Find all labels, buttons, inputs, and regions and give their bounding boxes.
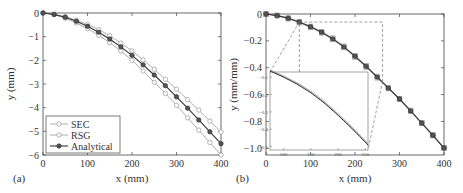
x-tick-label: 400 [214,158,229,169]
figure: 01002003004000−1−2−3−4−5−6x (mm)y (mm)(a… [0,0,463,193]
x-tick-label: 0 [264,158,269,169]
legend-entry: SEC [71,119,90,130]
y-tick-label: −0.4 [244,62,262,73]
x-tick-label: 0 [41,158,46,169]
inset-x-tick-label: 150 [307,152,315,157]
x-tick-label: 200 [348,158,363,169]
inset-y-tick-label: −0.4 [259,127,269,132]
y-tick-label: 0 [257,9,262,20]
x-tick-label: 100 [303,158,318,169]
y-tick-label: 0 [34,8,39,19]
panel-label: (a) [13,172,26,185]
y-axis-label: y (mm/mm) [227,58,240,111]
legend-entry: RSG [71,130,90,141]
inset-x-tick-label: 250 [362,152,370,157]
x-axis-label: x (mm) [339,172,372,185]
series-line-rsg [43,13,221,132]
x-axis-label: x (mm) [116,172,149,185]
y-tick-label: −2 [28,55,39,66]
panel-a: 01002003004000−1−2−3−4−5−6x (mm)y (mm)(a… [4,8,229,186]
inset-y-tick-label: −0.5 [259,145,269,150]
y-tick-label: −1 [28,31,39,42]
y-tick-label: −3 [28,79,39,90]
x-tick-label: 100 [80,158,95,169]
inset-y-tick-label: −0.1 [259,75,269,80]
inset-plot: 100150200250−0.1−0.2−0.3−0.4−0.5 [259,70,370,157]
inset-y-tick-label: −0.3 [259,110,269,115]
x-tick-label: 300 [169,158,184,169]
inset-x-tick-label: 100 [280,152,288,157]
y-tick-label: −0.2 [244,35,262,46]
x-tick-label: 200 [125,158,140,169]
y-tick-label: −4 [28,102,39,113]
panel-b: 01002003004000−0.2−0.4−0.6−0.8−1.0x (mm)… [227,9,452,186]
x-tick-label: 400 [437,158,452,169]
inset-y-tick-label: −0.2 [259,93,269,98]
inset-x-tick-label: 200 [334,152,342,157]
y-tick-label: −0.8 [244,116,262,127]
panel-label: (b) [236,172,249,185]
legend: SECRSGAnalytical [46,116,120,153]
y-tick-label: −6 [28,150,39,161]
x-tick-label: 300 [392,158,407,169]
y-axis-label: y (mm) [4,67,17,100]
y-tick-label: −5 [28,126,39,137]
legend-entry: Analytical [71,141,113,152]
